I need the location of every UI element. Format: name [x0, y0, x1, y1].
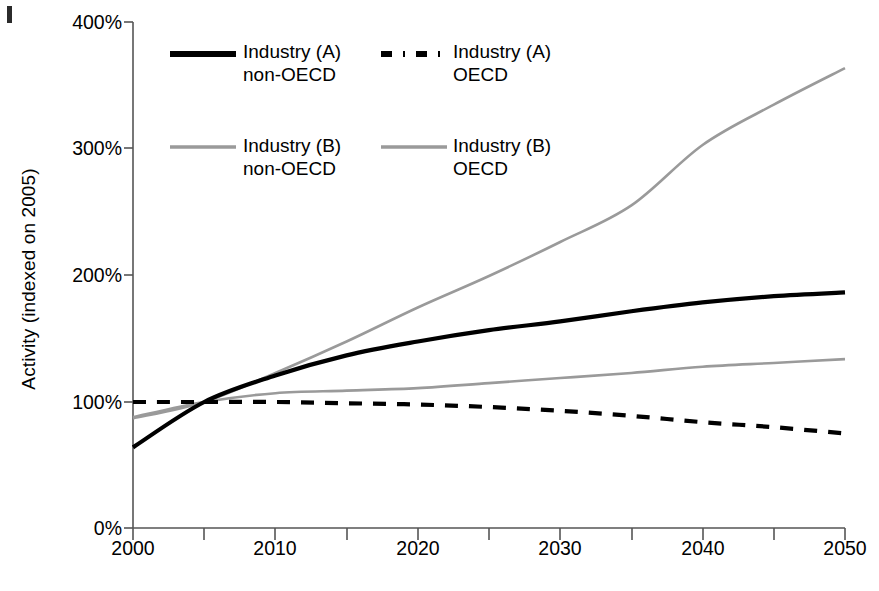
legend-label-line1: Industry (B)	[243, 135, 341, 156]
y-axis-ticks	[124, 22, 133, 528]
legend-swatch-industry-a-oecd	[381, 50, 447, 58]
legend-label-line2: non-OECD	[243, 64, 336, 85]
legend-label-line1: Industry (A)	[453, 41, 551, 62]
legend-label-industry-b-oecd: Industry (B) OECD	[453, 134, 551, 180]
legend-label-line2: OECD	[453, 158, 508, 179]
line-chart: Activity (indexed on 2005) 400% 300% 200…	[0, 0, 879, 591]
legend-swatch-industry-a-non-oecd	[170, 50, 236, 58]
legend-label-industry-a-oecd: Industry (A) OECD	[453, 40, 551, 86]
x-axis-ticks	[133, 528, 845, 540]
legend-label-industry-a-non-oecd: Industry (A) non-OECD	[243, 40, 341, 86]
legend-label-line1: Industry (B)	[453, 135, 551, 156]
plot-area	[0, 0, 879, 591]
series-line-industry-a-oecd	[133, 402, 845, 434]
legend-label-line1: Industry (A)	[243, 41, 341, 62]
legend-label-industry-b-non-oecd: Industry (B) non-OECD	[243, 134, 341, 180]
legend-swatch-industry-b-oecd	[381, 144, 447, 150]
data-series-group	[133, 68, 845, 447]
legend-label-line2: non-OECD	[243, 158, 336, 179]
legend-label-line2: OECD	[453, 64, 508, 85]
legend-swatch-industry-b-non-oecd	[170, 144, 236, 150]
